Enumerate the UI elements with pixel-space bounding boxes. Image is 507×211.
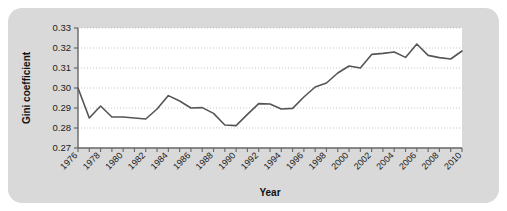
x-tick-label: 1988	[194, 150, 215, 171]
x-tick-label: 2004	[374, 150, 395, 171]
x-tick-label: 2002	[352, 150, 373, 171]
y-tick-label: 0.29	[53, 102, 72, 113]
x-tick-label: 2006	[397, 150, 418, 171]
y-tick-label: 0.33	[53, 22, 72, 33]
y-tick-label: 0.27	[53, 142, 72, 153]
y-tick-label: 0.31	[53, 62, 72, 73]
y-axis-title: Gini coefficient	[21, 51, 32, 124]
chart-panel: 0.270.280.290.300.310.320.33 19761978198…	[8, 8, 499, 203]
x-tick-label: 1986	[171, 150, 192, 171]
x-axis-tick-labels: 1976197819801982198419861988199019921994…	[58, 150, 463, 171]
x-tick-label: 2000	[329, 150, 350, 171]
x-tick-label: 2008	[420, 150, 441, 171]
x-tick-label: 1976	[58, 150, 79, 171]
x-tick-label: 1982	[126, 150, 147, 171]
x-tick-label: 1992	[239, 150, 260, 171]
x-tick-label: 1996	[284, 150, 305, 171]
x-tick-label: 1994	[261, 150, 282, 171]
y-tick-label: 0.30	[53, 82, 72, 93]
gini-coefficient-line-chart: 0.270.280.290.300.310.320.33 19761978198…	[8, 8, 499, 203]
x-tick-label: 1984	[149, 150, 170, 171]
x-tick-label: 1978	[81, 150, 102, 171]
y-axis-ticks: 0.270.280.290.300.310.320.33	[53, 22, 79, 153]
y-tick-label: 0.32	[53, 42, 72, 53]
x-tick-label: 1980	[103, 150, 124, 171]
x-tick-label: 1998	[307, 150, 328, 171]
y-tick-label: 0.28	[53, 122, 72, 133]
x-tick-label: 2010	[442, 150, 463, 171]
x-axis-title: Year	[259, 187, 280, 198]
x-tick-label: 1990	[216, 150, 237, 171]
